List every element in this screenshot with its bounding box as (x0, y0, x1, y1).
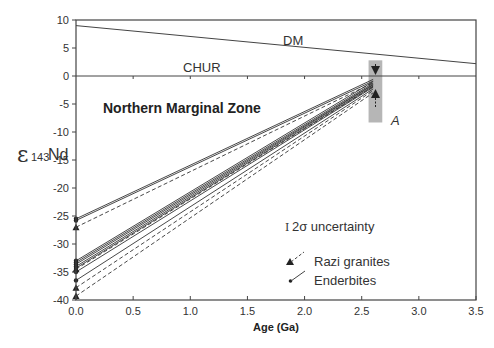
x-tick-label: 0.0 (68, 305, 83, 317)
legend-razi-granites: Razi granites (314, 254, 390, 269)
y-axis-element: Nd (48, 146, 68, 163)
y-tick-label: -25 (53, 210, 69, 222)
x-tick-label: 3.5 (468, 305, 483, 317)
isotope-evolution-chart: 0.00.51.01.52.02.53.03.5 1050-5-10-15-20… (0, 0, 494, 348)
triangle-marker-icon (286, 258, 294, 265)
dm-reference-line (76, 26, 476, 64)
x-tick-label: 2.0 (297, 305, 312, 317)
x-tick-label: 1.0 (183, 305, 198, 317)
x-tick-label: 0.5 (125, 305, 140, 317)
solid-line-icon (291, 271, 305, 281)
y-tick-label: 10 (57, 14, 69, 26)
y-axis-epsilon: ε (17, 142, 28, 167)
legend: I 2σ uncertainty Razi granites Enderbite… (285, 219, 390, 288)
zone-label: Northern Marginal Zone (103, 100, 261, 116)
x-axis-title: Age (Ga) (253, 321, 299, 333)
band-label-a: A (390, 113, 400, 128)
y-axis-isotope: 143 (31, 151, 49, 163)
x-tick-label: 1.5 (240, 305, 255, 317)
uncertainty-label: 2σ uncertainty (292, 219, 375, 234)
x-tick-label: 2.5 (354, 305, 369, 317)
y-tick-label: -10 (53, 126, 69, 138)
y-tick-label: -40 (53, 294, 69, 306)
y-tick-label: -35 (53, 266, 69, 278)
y-tick-label: -20 (53, 182, 69, 194)
y-tick-label: 5 (63, 42, 69, 54)
error-bar-icon: I (285, 221, 289, 234)
dm-label: DM (283, 33, 303, 48)
chur-label: CHUR (183, 60, 221, 75)
plot-frame (76, 20, 476, 300)
y-tick-label: -5 (59, 98, 69, 110)
y-tick-label: -30 (53, 238, 69, 250)
y-tick-label: 0 (63, 70, 69, 82)
legend-enderbites: Enderbites (314, 273, 377, 288)
x-tick-label: 3.0 (411, 305, 426, 317)
dashed-line-icon (291, 252, 304, 262)
enderbite-line (76, 89, 373, 281)
